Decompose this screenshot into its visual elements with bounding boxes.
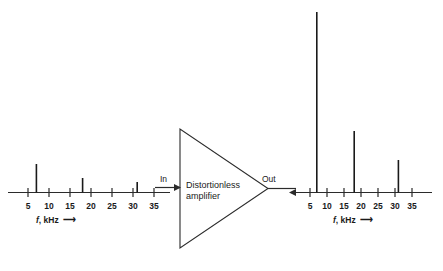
output-axis-unit: kHz xyxy=(341,215,356,225)
amplifier-input-label: In xyxy=(160,175,167,184)
input-axis-unit: kHz xyxy=(44,215,59,225)
input-spectrum-plot xyxy=(8,164,170,197)
input-tick-label-10: 10 xyxy=(44,202,53,211)
input-tick-label-20: 20 xyxy=(86,202,95,211)
amplifier-name-line2: amplifier xyxy=(186,191,220,202)
figure-canvas: 5 10 15 20 25 30 35 f, kHz⟶ In Out Disto… xyxy=(0,0,443,271)
figure-vector-layer xyxy=(0,0,443,271)
input-tick-label-35: 35 xyxy=(149,202,158,211)
amplifier-output-label: Out xyxy=(262,175,276,184)
output-tick-label-5: 5 xyxy=(308,202,313,211)
output-tick-label-20: 20 xyxy=(356,202,365,211)
amplifier-name-line1: Distortionless xyxy=(186,180,240,191)
input-tick-label-5: 5 xyxy=(26,202,31,211)
output-tick-label-10: 10 xyxy=(322,202,331,211)
output-spectrum-plot xyxy=(289,12,432,197)
output-tick-label-15: 15 xyxy=(339,202,348,211)
output-axis-title: f, kHz⟶ xyxy=(333,216,373,225)
output-tick-label-30: 30 xyxy=(390,202,399,211)
output-axis-arrowhead xyxy=(289,189,296,196)
input-tick-label-30: 30 xyxy=(128,202,137,211)
output-axis-arrow-glyph: ⟶ xyxy=(360,215,373,224)
output-tick-label-25: 25 xyxy=(373,202,382,211)
input-lead xyxy=(155,184,181,191)
output-tick-label-35: 35 xyxy=(407,202,416,211)
input-tick-label-25: 25 xyxy=(107,202,116,211)
input-tick-label-15: 15 xyxy=(65,202,74,211)
input-axis-title: f, kHz⟶ xyxy=(36,216,76,225)
input-axis-arrow-glyph: ⟶ xyxy=(63,215,76,224)
